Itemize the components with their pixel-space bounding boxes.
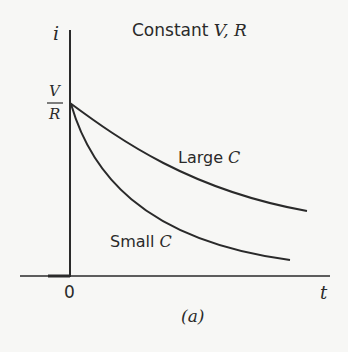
- large-c-label: Large C: [178, 148, 240, 167]
- title-vars: V, R: [214, 20, 247, 40]
- y-axis-label: i: [53, 22, 59, 44]
- small-label-text: Small: [110, 232, 154, 251]
- y-tick-denominator: R: [49, 105, 60, 123]
- small-label-var: C: [160, 232, 172, 251]
- large-label-text: Large: [178, 148, 223, 167]
- caption: (a): [181, 306, 204, 326]
- title-text: Constant: [132, 20, 208, 40]
- figure: i Constant V, R V R Large C Small C 0 t …: [0, 0, 348, 352]
- x-axis-label: t: [320, 282, 327, 303]
- origin-label: 0: [64, 282, 75, 302]
- large-label-var: C: [228, 148, 240, 167]
- small-c-label: Small C: [110, 232, 172, 251]
- title: Constant V, R: [132, 20, 247, 40]
- y-tick-numerator: V: [49, 82, 60, 100]
- plot-area: [0, 0, 348, 352]
